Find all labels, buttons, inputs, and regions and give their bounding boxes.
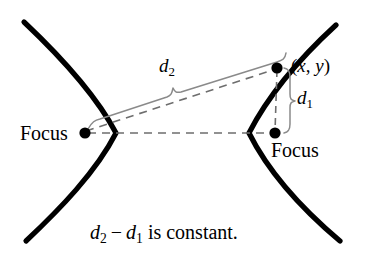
d1-dashed-segment — [275, 70, 277, 132]
caption-d2-subscript: 2 — [100, 231, 107, 246]
d2-dashed-segment — [86, 69, 276, 131]
point-xy-label: (x, y) — [291, 56, 330, 75]
caption-text: d2−d1is constant. — [90, 222, 238, 245]
point-comma: , — [306, 55, 316, 76]
point-x-var: x — [297, 55, 305, 76]
point-y-var: y — [315, 55, 323, 76]
caption-d1-letter: d — [126, 221, 136, 243]
d1-label: d1 — [297, 88, 313, 111]
d1-subscript: 1 — [307, 96, 313, 111]
focus-right-label: Focus — [271, 140, 319, 160]
point-close-paren: ) — [324, 55, 330, 76]
focus-left-dot — [79, 127, 90, 138]
caption-tail: is constant. — [148, 221, 238, 243]
caption-d2-letter: d — [90, 221, 100, 243]
point-xy-dot — [271, 62, 282, 73]
d2-letter: d — [159, 55, 169, 76]
caption-minus-operator: − — [107, 221, 126, 243]
focus-right-dot — [269, 127, 280, 138]
focus-left-label: Focus — [20, 123, 68, 143]
hyperbola-figure: Focus Focus (x, y) d2 d1 d2−d1is constan… — [0, 0, 366, 266]
d2-label: d2 — [159, 56, 175, 79]
d1-letter: d — [297, 87, 307, 108]
d2-subscript: 2 — [169, 64, 175, 79]
caption-d1-subscript: 1 — [136, 231, 143, 246]
